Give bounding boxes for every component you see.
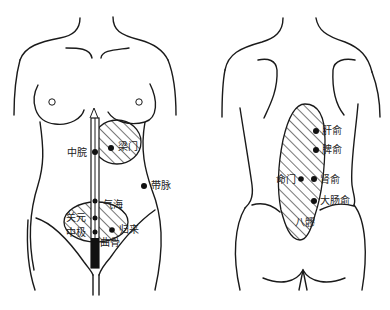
back-scapula-left: [258, 59, 277, 118]
point-guilai: [109, 227, 115, 233]
front-neck-right: [113, 17, 168, 60]
front-nipple-right: [136, 99, 142, 105]
front-arm-left: [14, 60, 20, 115]
point-dachangshu: [311, 198, 317, 204]
point-guanyuan: [93, 216, 98, 221]
back-figure: 肝俞 脾俞 命门 肾俞 大肠俞 八髎: [222, 18, 380, 290]
point-zhongwan: [92, 149, 98, 155]
front-breast-left: [34, 85, 84, 124]
front-figure: 中脘 梁门 带脉 气海 关元 中极 归来 曲骨: [14, 17, 176, 295]
front-clavicle-left: [66, 48, 92, 58]
front-leg-gap: [93, 275, 99, 295]
front-arm-right: [168, 60, 176, 115]
label-dachangshu: 大肠俞: [320, 194, 350, 206]
label-zhongwan: 中脘: [67, 146, 87, 158]
back-waist-line-left: [252, 204, 280, 212]
point-shenshu: [311, 176, 317, 182]
front-torso-right: [143, 122, 161, 290]
back-hip-left: [235, 208, 245, 290]
label-pishu: 脾俞: [322, 143, 342, 155]
label-zhongji: 中极: [66, 226, 86, 238]
front-neck-left: [20, 18, 80, 60]
front-torso-left: [31, 122, 43, 270]
label-liangmen: 梁门: [118, 140, 138, 152]
point-qihai: [93, 199, 98, 204]
point-zhongji: [93, 230, 98, 235]
front-clavicle-right: [101, 48, 129, 58]
back-scapula-right: [333, 59, 355, 115]
acupuncture-diagram: 中脘 梁门 带脉 气海 关元 中极 归来 曲骨: [0, 0, 390, 310]
label-ganshu: 肝俞: [322, 124, 342, 136]
back-neck-right: [316, 18, 372, 72]
point-daimai: [141, 183, 147, 189]
point-liangmen: [108, 145, 114, 151]
point-mingmen: [298, 176, 304, 182]
label-qugu: 曲骨: [100, 237, 120, 248]
back-arm-right: [372, 72, 380, 117]
label-daimai: 带脉: [151, 179, 171, 191]
label-guilai: 归来: [119, 223, 139, 235]
back-hip-right: [354, 205, 365, 290]
point-ganshu: [313, 128, 319, 134]
back-torso-left: [240, 108, 252, 208]
front-breast-right: [108, 84, 155, 124]
point-pishu: [313, 147, 319, 153]
front-sternum: [90, 108, 98, 118]
label-mingmen: 命门: [276, 173, 296, 185]
label-shenshu: 肾俞: [320, 173, 340, 185]
label-guanyuan: 关元: [66, 211, 86, 223]
front-nipple-left: [49, 99, 55, 105]
lower-meridian-solid: [91, 238, 99, 268]
label-baliao: 八髎: [295, 217, 315, 228]
back-arm-left: [222, 70, 225, 117]
label-qihai: 气海: [103, 198, 123, 210]
back-torso-right: [352, 104, 358, 205]
